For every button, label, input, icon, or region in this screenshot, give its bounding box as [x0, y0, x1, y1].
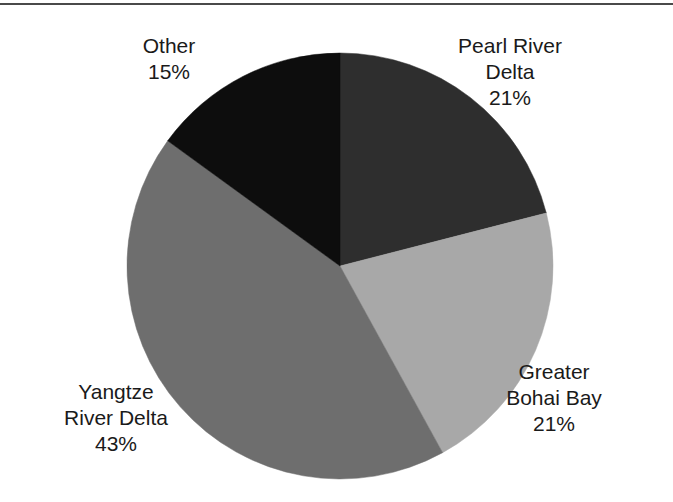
pie-label-greater-bohai-bay-value: 21%: [468, 411, 640, 437]
pie-label-other-name: Other: [108, 33, 230, 59]
pie-label-other: Other 15%: [108, 33, 230, 85]
pie-label-yangtze-river-delta-name-line1: Yangtze: [20, 379, 212, 405]
pie-label-other-value: 15%: [108, 59, 230, 85]
pie-label-greater-bohai-bay-name-line1: Greater: [468, 359, 640, 385]
pie-chart-figure: Other 15% Pearl River Delta 21% Greater …: [0, 0, 673, 502]
pie-label-yangtze-river-delta-name-line2: River Delta: [20, 405, 212, 431]
pie-label-pearl-river-delta: Pearl River Delta 21%: [430, 33, 590, 111]
pie-label-yangtze-river-delta-value: 43%: [20, 431, 212, 457]
pie-label-pearl-river-delta-name-line2: Delta: [430, 59, 590, 85]
pie-label-greater-bohai-bay-name-line2: Bohai Bay: [468, 385, 640, 411]
pie-label-greater-bohai-bay: Greater Bohai Bay 21%: [468, 359, 640, 437]
pie-label-pearl-river-delta-value: 21%: [430, 85, 590, 111]
pie-label-yangtze-river-delta: Yangtze River Delta 43%: [20, 379, 212, 457]
pie-label-pearl-river-delta-name-line1: Pearl River: [430, 33, 590, 59]
